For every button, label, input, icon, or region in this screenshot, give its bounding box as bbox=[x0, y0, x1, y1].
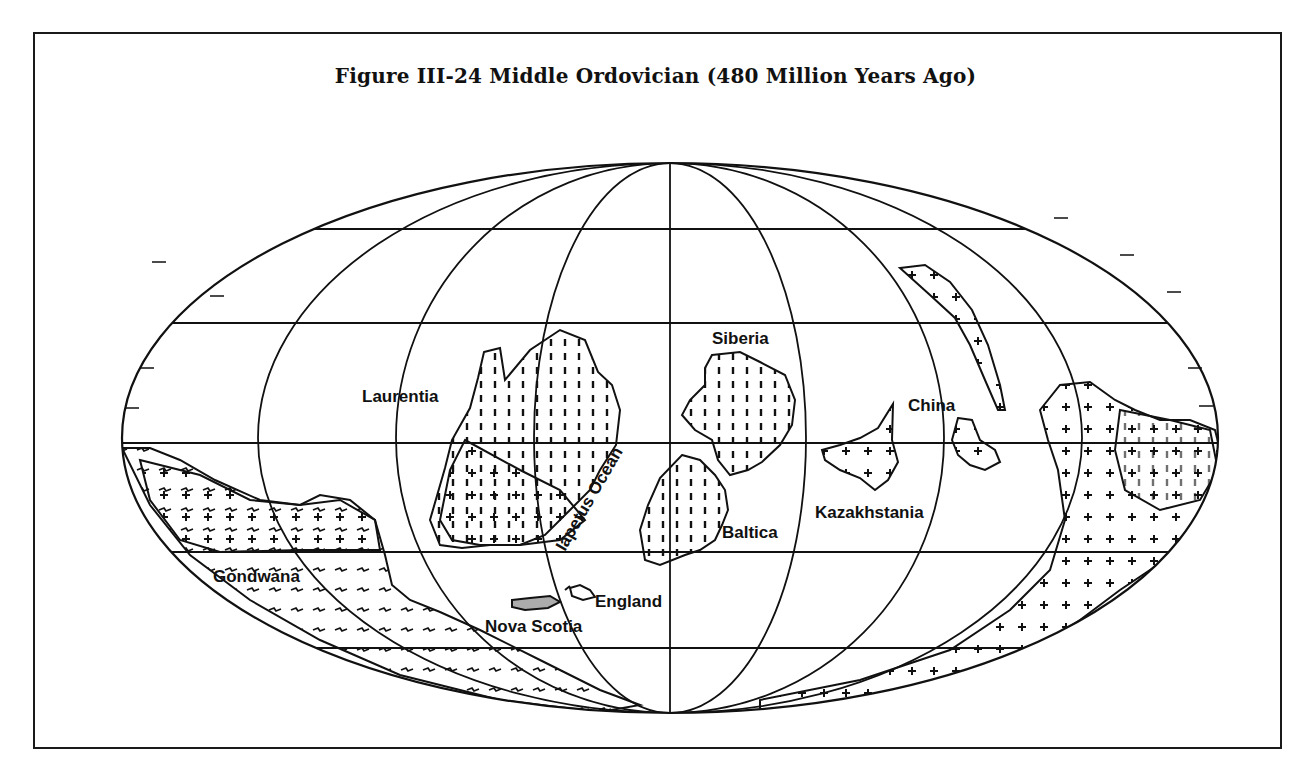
china-landmass bbox=[952, 418, 1000, 470]
label-laurentia: Laurentia bbox=[362, 387, 439, 406]
label-kazakhstania: Kazakhstania bbox=[815, 503, 924, 522]
label-nova-scotia: Nova Scotia bbox=[485, 617, 583, 636]
label-baltica: Baltica bbox=[722, 523, 778, 542]
kazakhstania-landmass bbox=[822, 404, 898, 490]
label-china: China bbox=[908, 396, 956, 415]
label-gondwana: Gondwana bbox=[213, 567, 300, 586]
north-china-landmass bbox=[900, 265, 1005, 410]
england-landmass bbox=[565, 585, 595, 600]
label-siberia: Siberia bbox=[712, 329, 769, 348]
continents bbox=[122, 265, 1225, 720]
nova-scotia-landmass bbox=[512, 596, 560, 610]
baltica-landmass bbox=[640, 455, 728, 565]
siberia-landmass bbox=[682, 352, 795, 475]
paleogeographic-map: Laurentia Siberia China Kazakhstania Bal… bbox=[0, 0, 1311, 781]
label-england: England bbox=[595, 592, 662, 611]
